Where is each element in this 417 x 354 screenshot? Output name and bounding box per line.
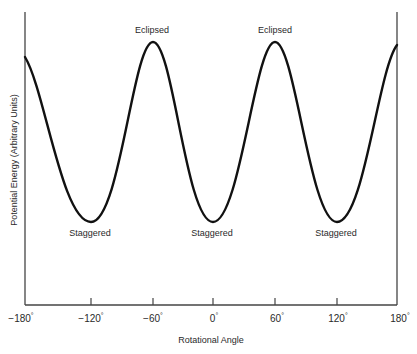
x-tick-marks (91, 298, 337, 305)
tick-label-neg120: −120° (78, 312, 104, 324)
energy-curve (25, 42, 397, 222)
tick-label-60: 60° (270, 312, 284, 324)
tick-label-180: 180° (390, 312, 410, 324)
x-axis-title: Rotational Angle (178, 335, 244, 345)
chart: Eclipsed Eclipsed Staggered Staggered St… (0, 0, 417, 354)
x-tick-labels: −180° −120° −60° 0° 60° 120° 180° (8, 312, 410, 324)
y-axis-title: Potential Energy (Arbitrary Units) (9, 94, 19, 226)
annotation-staggered-3: Staggered (315, 228, 357, 238)
annotation-staggered-1: Staggered (69, 228, 111, 238)
tick-label-neg180: −180° (8, 312, 34, 324)
tick-label-0: 0° (210, 312, 219, 324)
tick-label-neg60: −60° (143, 312, 163, 324)
annotation-eclipsed-1: Eclipsed (135, 25, 169, 35)
annotation-eclipsed-2: Eclipsed (258, 25, 292, 35)
annotation-staggered-2: Staggered (191, 228, 233, 238)
tick-label-120: 120° (328, 312, 348, 324)
